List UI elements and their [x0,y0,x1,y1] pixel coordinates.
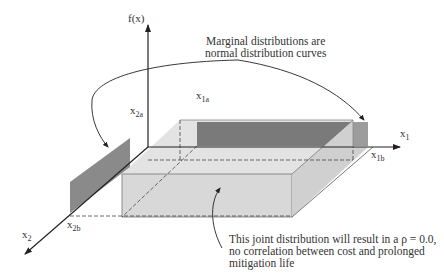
x1a-label: x1a [196,89,209,104]
x2-axis-label: x2 [22,228,32,243]
x1b-label-sub: 1b [377,154,385,163]
marginal-annotation-line1: Marginal distributions are [205,35,326,47]
box-front-face [122,174,292,217]
x1b-label: x1b [371,148,385,163]
marginal-annotation: Marginal distributions are normal distri… [205,35,326,59]
x2b-label-sub: 2b [73,224,81,233]
joint-annotation: This joint distribution will result in a… [229,233,436,269]
x2-marginal-bar [70,138,130,213]
joint-annotation-line3: mitigation life [229,257,436,269]
marginal-callout-arrow-right [238,60,364,120]
marginal-annotation-line2: normal distribution curves [205,47,326,59]
x2b-label: x2b [67,218,81,233]
x2-axis-label-sub: 2 [28,234,32,243]
x1-axis-label-sub: 1 [406,133,410,142]
x1a-label-sub: 1a [202,95,210,104]
x2a-label: x2a [130,104,143,119]
joint-annotation-line2: no correlation between cost and prolonge… [229,245,436,257]
x2a-label-sub: 2a [136,110,144,119]
f-axis-label: f(x) [128,12,145,24]
x1-axis-label: x1 [400,127,410,142]
joint-annotation-line1: This joint distribution will result in a… [229,233,436,245]
x1-marginal-bar-extension [353,122,368,146]
